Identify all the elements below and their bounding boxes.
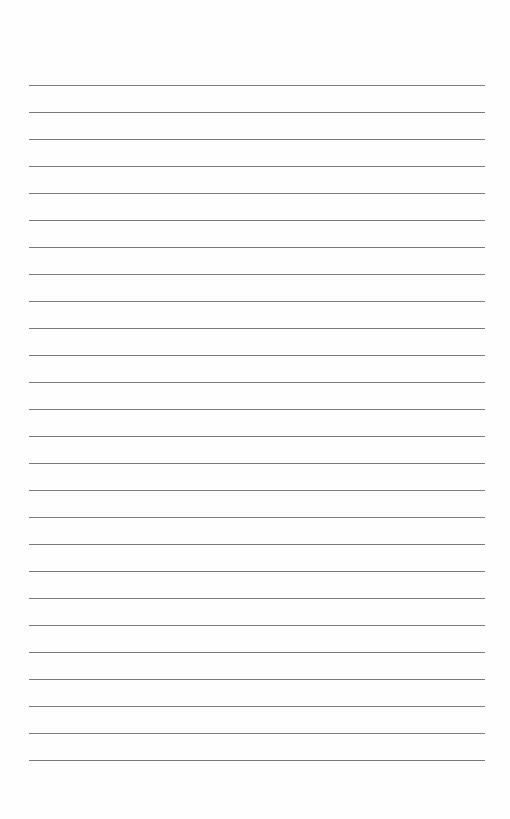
ruled-line [29,436,485,437]
ruled-line [29,571,485,572]
ruled-line [29,544,485,545]
ruled-line [29,301,485,302]
ruled-line [29,220,485,221]
ruled-line [29,166,485,167]
ruled-line [29,598,485,599]
ruled-line [29,139,485,140]
ruled-line [29,517,485,518]
ruled-line [29,490,485,491]
ruled-line [29,679,485,680]
ruled-line [29,409,485,410]
ruled-line [29,274,485,275]
ruled-line [29,760,485,761]
lined-paper-page [0,0,510,819]
ruled-line [29,193,485,194]
ruled-line [29,382,485,383]
ruled-line [29,247,485,248]
ruled-line [29,355,485,356]
ruled-line [29,652,485,653]
ruled-line [29,85,485,86]
ruled-line [29,625,485,626]
ruled-line [29,706,485,707]
ruled-line [29,328,485,329]
ruled-line [29,733,485,734]
ruled-line [29,112,485,113]
ruled-line [29,463,485,464]
